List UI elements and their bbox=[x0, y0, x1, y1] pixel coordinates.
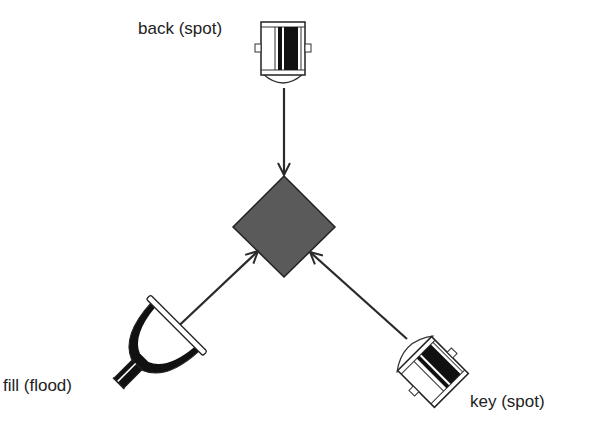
key-light-arrow bbox=[310, 252, 407, 339]
lighting-diagram bbox=[0, 0, 597, 436]
key-spotlight-icon bbox=[387, 326, 473, 412]
back-light-label: back (spot) bbox=[138, 20, 222, 37]
fill-floodlight-icon bbox=[90, 295, 207, 412]
fill-light-label: fill (flood) bbox=[3, 377, 72, 394]
back-spotlight-icon bbox=[255, 22, 311, 83]
key-light-label: key (spot) bbox=[470, 393, 545, 410]
fill-light-arrow bbox=[168, 251, 258, 336]
